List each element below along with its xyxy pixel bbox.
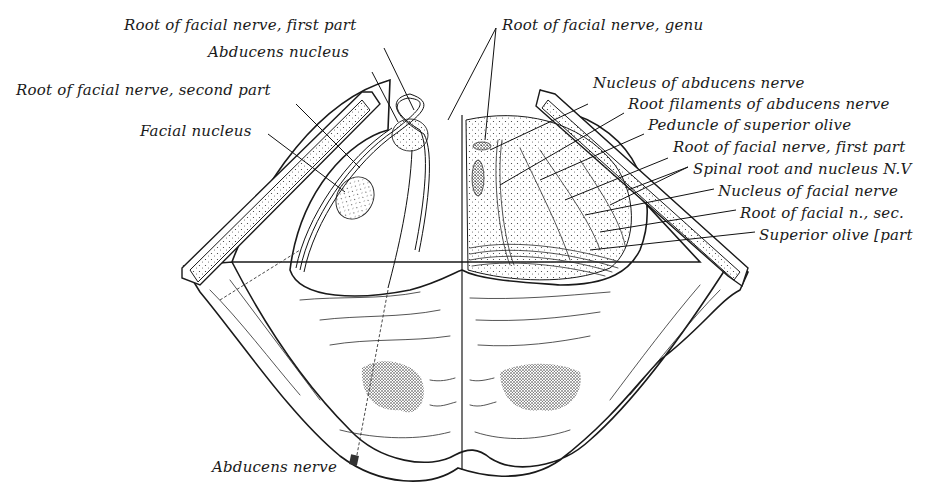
left-abducens-nucleus [392,119,428,151]
label-root-filaments-abducens-nerve: Root filaments of abducens nerve [628,97,890,112]
label-root-facial-nerve-genu: Root of facial nerve, genu [502,18,703,33]
right-abducens-nucleus [473,142,491,150]
label-abducens-nerve: Abducens nerve [212,460,337,475]
label-root-facial-nerve-first-part-right: Root of facial nerve, first part [673,140,905,155]
label-root-facial-n-sec: Root of facial n., sec. [740,206,904,221]
label-superior-olive: Superior olive [part [759,228,913,243]
right-pyramid [500,364,581,411]
left-facial-nucleus [328,170,381,226]
label-abducens-nucleus: Abducens nucleus [208,45,349,60]
label-root-facial-nerve-first-part-left: Root of facial nerve, first part [124,18,356,33]
label-root-facial-nerve-second-part: Root of facial nerve, second part [16,83,271,98]
label-spinal-root-nucleus-nv: Spinal root and nucleus N.V [693,162,912,177]
left-pyramid [362,361,424,412]
label-peduncle-superior-olive: Peduncle of superior olive [648,118,851,133]
right-facial-nucleus [472,160,484,196]
label-nucleus-of-abducens-nerve: Nucleus of abducens nerve [593,76,805,91]
label-facial-nucleus: Facial nucleus [140,124,252,139]
label-nucleus-of-facial-nerve: Nucleus of facial nerve [718,184,898,199]
